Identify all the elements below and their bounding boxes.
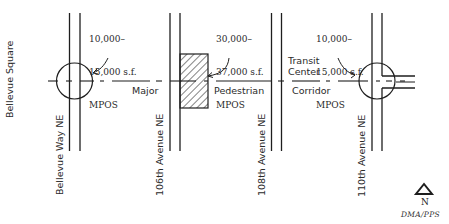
callout-line: 15,000 s.f. [89,67,137,78]
street-bellevue-way [70,13,81,151]
callout-line: 10,000– [89,34,137,45]
callout-line: MPOS [89,100,137,111]
north-arrow-icon [416,184,432,194]
callout-line: 15,000 s.f. [316,67,364,78]
callout-line: 30,000– [216,34,264,45]
callout-line: 10,000– [316,34,364,45]
corridor-word-corridor: Corridor [292,85,330,96]
street-label-110th: 110th Avenue NE [356,115,367,197]
street-106th [170,13,180,151]
street-label-106th: 106th Avenue NE [154,114,165,196]
credit-label: DMA/PPS [401,210,440,219]
transit-line: Transit [288,55,320,66]
callout-line: MPOS [216,100,264,111]
corridor-word-major: Major [132,85,158,96]
callout-line: 37,000 s.f. [216,67,264,78]
transit-center-label: Transit Center [288,55,320,77]
callout-bellevue-way: 10,000– 15,000 s.f. MPOS [89,12,137,122]
street-label-bellevue-way: Bellevue Way NE [54,115,65,195]
bellevue-square-label: Bellevue Square [4,41,15,118]
callout-110th: 10,000– 15,000 s.f. MPOS [316,12,364,122]
corridor-word-pedestrian: Pedestrian [214,85,264,96]
transit-line: Center [288,66,320,77]
north-label: N [421,197,429,207]
callout-line: MPOS [316,100,364,111]
street-label-108th: 108th Avenue NE [256,114,267,196]
street-110th [372,13,415,151]
street-108th [272,13,282,151]
mpos-block-106th [180,54,208,108]
callout-106th: 30,000– 37,000 s.f. MPOS [216,12,264,122]
